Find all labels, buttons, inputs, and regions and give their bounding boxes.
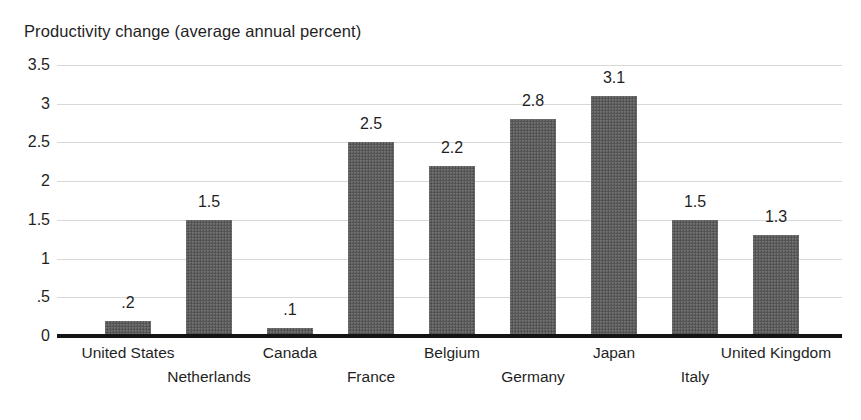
category-label: Canada — [205, 345, 375, 361]
bar — [348, 142, 394, 336]
y-axis: 3.532.521.51.50 — [0, 65, 50, 336]
bar — [591, 96, 637, 336]
bar-value-label: .1 — [255, 302, 325, 318]
y-axis-tick-label: 2.5 — [4, 134, 50, 150]
bar-value-label: 1.5 — [660, 194, 730, 210]
bar-value-label: 1.5 — [174, 194, 244, 210]
y-axis-tick-label: 1.5 — [4, 212, 50, 228]
category-label: United Kingdom — [691, 345, 861, 361]
bar — [753, 235, 799, 336]
bar — [186, 220, 232, 336]
x-axis-baseline — [57, 334, 842, 338]
productivity-bar-chart: Productivity change (average annual perc… — [0, 0, 861, 420]
y-axis-tick-label: .5 — [4, 289, 50, 305]
y-axis-tick-label: 0 — [4, 328, 50, 344]
category-label: Netherlands — [124, 369, 294, 385]
category-label: France — [286, 369, 456, 385]
bar — [429, 166, 475, 336]
category-label: Germany — [448, 369, 618, 385]
chart-title: Productivity change (average annual perc… — [24, 22, 361, 41]
bar-value-label: .2 — [93, 295, 163, 311]
plot-area: .21.5.12.52.22.83.11.51.3 — [57, 65, 842, 336]
bar-value-label: 2.8 — [498, 93, 568, 109]
bar-value-label: 3.1 — [579, 70, 649, 86]
category-label: Italy — [610, 369, 780, 385]
bar-value-label: 2.2 — [417, 140, 487, 156]
y-axis-tick-label: 3.5 — [4, 57, 50, 73]
bar — [672, 220, 718, 336]
category-label: Japan — [529, 345, 699, 361]
bar-value-label: 1.3 — [741, 209, 811, 225]
category-label: Belgium — [367, 345, 537, 361]
gridline — [57, 104, 842, 105]
gridline — [57, 65, 842, 66]
y-axis-tick-label: 2 — [4, 173, 50, 189]
bar — [510, 119, 556, 336]
category-label: United States — [43, 345, 213, 361]
y-axis-tick-label: 3 — [4, 96, 50, 112]
bar-value-label: 2.5 — [336, 116, 406, 132]
y-axis-tick-label: 1 — [4, 251, 50, 267]
